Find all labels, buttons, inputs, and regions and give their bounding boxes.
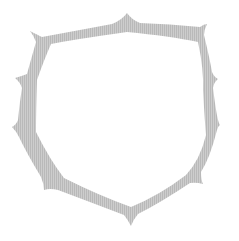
spiked-shield-frame xyxy=(0,0,239,241)
frame-shape xyxy=(12,13,220,226)
graphic-canvas: Spiked shield frame xyxy=(0,0,239,241)
